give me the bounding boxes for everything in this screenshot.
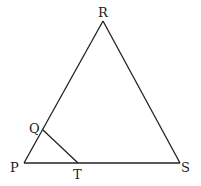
- label-p: P: [10, 160, 19, 175]
- segment-rs: [103, 21, 180, 163]
- label-r: R: [98, 5, 109, 20]
- segment-pr: [24, 21, 103, 163]
- geometry-diagram: R P S Q T: [0, 0, 201, 186]
- label-t: T: [73, 167, 82, 182]
- triangle-figure: R P S Q T: [0, 0, 201, 186]
- label-q: Q: [29, 121, 40, 136]
- label-s: S: [181, 160, 190, 175]
- segment-qt: [43, 130, 78, 163]
